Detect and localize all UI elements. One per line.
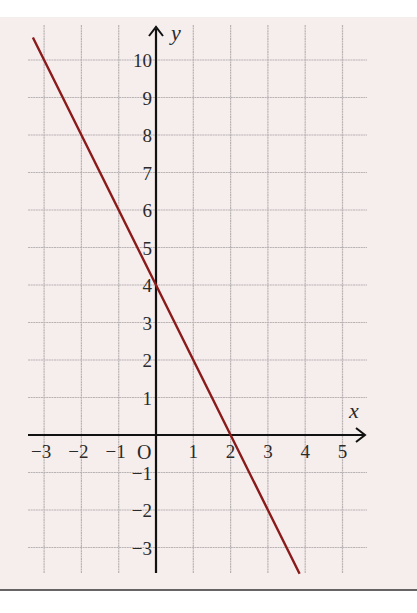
y-tick-label: 8 <box>143 125 153 146</box>
y-tick-label: 6 <box>143 200 153 221</box>
x-tick-label: 1 <box>189 441 199 462</box>
y-tick-label: 3 <box>143 313 153 334</box>
y-tick-label: 7 <box>143 163 153 184</box>
y-tick-label: 9 <box>143 88 153 109</box>
x-tick-label: 5 <box>338 441 348 462</box>
y-tick-label: 2 <box>143 350 153 371</box>
y-tick-label: 4 <box>143 275 153 296</box>
y-tick-label: 5 <box>143 238 153 259</box>
x-tick-label: 3 <box>263 441 273 462</box>
x-tick-label: −1 <box>106 441 126 462</box>
x-tick-label: −3 <box>31 441 51 462</box>
x-tick-label: 4 <box>300 441 310 462</box>
origin-label: O <box>137 441 151 463</box>
plot-background <box>0 17 417 590</box>
chart-figure: −3−2−11234510987654321−1−2−3 x y O <box>0 0 417 613</box>
y-tick-label: −3 <box>132 538 152 559</box>
y-tick-label: 10 <box>133 50 152 71</box>
x-axis-label: x <box>348 398 359 423</box>
y-axis-label: y <box>169 20 181 45</box>
y-tick-label: 1 <box>143 388 153 409</box>
y-tick-label: −1 <box>132 463 152 484</box>
y-tick-label: −2 <box>132 500 152 521</box>
x-tick-label: −2 <box>68 441 88 462</box>
